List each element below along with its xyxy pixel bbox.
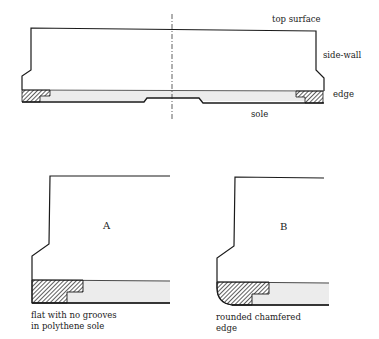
detail-a-caption-line2: in polythene sole — [31, 321, 104, 331]
detail-a-section — [32, 176, 170, 303]
label-sole: sole — [251, 109, 268, 119]
detail-b-section — [217, 177, 329, 305]
detail-b-letter: B — [280, 221, 287, 232]
label-edge: edge — [333, 89, 354, 99]
label-side-wall: side-wall — [323, 50, 361, 60]
detail-a-caption-line1: flat with no grooves — [31, 310, 117, 320]
detail-a-letter: A — [102, 220, 111, 231]
right-steel-edge — [296, 91, 323, 103]
main-ski-cross-section — [22, 14, 324, 120]
ski-body-outline — [22, 28, 324, 91]
sole-fill — [22, 90, 323, 103]
detail-b-caption-line1: rounded chamfered — [216, 312, 301, 322]
detail-b-caption-line2: edge — [216, 323, 237, 333]
label-top-surface: top surface — [272, 14, 321, 24]
